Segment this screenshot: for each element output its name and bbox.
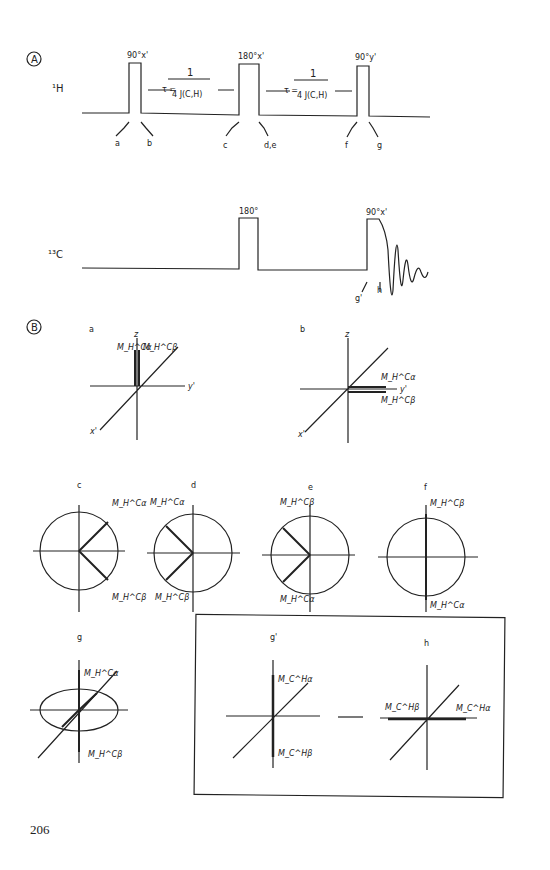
svg-text:M_H^Cβ: M_H^Cβ [143, 343, 177, 352]
svg-text:d: d [191, 481, 196, 490]
svg-text:A: A [31, 54, 38, 65]
time-point-markers [116, 122, 378, 137]
svg-text:M_H^Cβ: M_H^Cβ [112, 593, 146, 602]
vector-diagram-a [90, 338, 185, 440]
svg-text:y': y' [187, 382, 195, 391]
svg-text:M_H^Cα: M_H^Cα [430, 601, 465, 610]
svg-text:f: f [345, 141, 348, 150]
svg-text:¹H: ¹H [52, 83, 64, 94]
svg-text:g: g [77, 633, 82, 642]
svg-text:a: a [115, 139, 120, 148]
svg-text:¹³C: ¹³C [48, 249, 63, 260]
svg-text:f: f [424, 483, 427, 492]
svg-text:180°: 180° [239, 207, 258, 216]
svg-text:e: e [308, 483, 313, 492]
vector-diagram-h [380, 665, 477, 770]
svg-text:M_H^Cα: M_H^Cα [280, 595, 315, 604]
svg-text:τ =: τ = [284, 86, 298, 95]
svg-text:M_H^Cα: M_H^Cα [381, 373, 416, 382]
svg-text:x': x' [89, 427, 97, 436]
svg-text:a: a [89, 325, 94, 334]
svg-text:x': x' [297, 430, 305, 439]
svg-text:z: z [344, 330, 350, 339]
svg-text:M_H^Cβ: M_H^Cβ [88, 750, 122, 759]
svg-text:M_C^Hα: M_C^Hα [278, 675, 313, 684]
svg-text:M_H^Cβ: M_H^Cβ [381, 396, 415, 405]
svg-text:4 J(C,H): 4 J(C,H) [172, 90, 202, 99]
svg-text:90°x': 90°x' [366, 208, 387, 217]
vector-diagram-f [378, 505, 478, 612]
page-number: 206 [30, 822, 50, 837]
svg-text:M_C^Hβ: M_C^Hβ [385, 703, 419, 712]
pulse-sequence-figure: A ¹H ¹³C 90°x' 180°x' 90°y' 1 1 τ = τ = … [0, 0, 550, 870]
svg-text:d,e: d,e [264, 141, 277, 150]
svg-text:90°y': 90°y' [355, 53, 376, 62]
svg-text:M_C^Hα: M_C^Hα [456, 704, 491, 713]
svg-text:M_C^Hβ: M_C^Hβ [278, 749, 312, 758]
svg-text:g: g [377, 141, 382, 150]
svg-text:h: h [377, 286, 382, 295]
svg-text:M_H^Cβ: M_H^Cβ [280, 498, 314, 507]
fraction-bars [168, 79, 328, 80]
svg-text:c: c [223, 141, 227, 150]
svg-text:g': g' [355, 294, 362, 303]
svg-text:M_H^Cβ: M_H^Cβ [430, 499, 464, 508]
svg-text:B: B [31, 322, 38, 333]
svg-text:1: 1 [187, 67, 193, 78]
svg-text:g': g' [270, 633, 277, 642]
svg-text:z: z [133, 330, 139, 339]
svg-text:180°x': 180°x' [238, 52, 264, 61]
svg-text:1: 1 [310, 68, 316, 79]
svg-text:h: h [424, 639, 429, 648]
svg-text:M_H^Cα: M_H^Cα [150, 498, 185, 507]
svg-text:M_H^Cβ: M_H^Cβ [155, 593, 189, 602]
svg-text:c: c [77, 481, 81, 490]
svg-text:90°x': 90°x' [127, 51, 148, 60]
vector-diagram-b [300, 338, 397, 443]
svg-text:4 J(C,H): 4 J(C,H) [297, 91, 327, 100]
svg-text:M_H^Cα: M_H^Cα [112, 499, 147, 508]
svg-text:b: b [147, 139, 152, 148]
h-pulse-train [82, 63, 430, 117]
svg-text:M_H^Cα: M_H^Cα [84, 669, 119, 678]
svg-text:y': y' [399, 385, 407, 394]
c-pulse-train [82, 218, 428, 295]
svg-text:b: b [300, 325, 305, 334]
